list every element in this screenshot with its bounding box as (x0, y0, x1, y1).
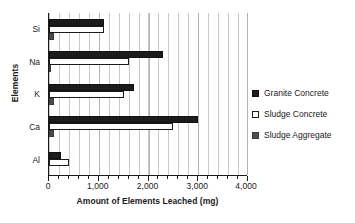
bar-group-k (49, 78, 247, 110)
bar-sludge-concrete (49, 58, 129, 65)
x-axis-title: Amount of Elements Leached (mg) (30, 196, 265, 206)
x-axis-tick-label: 1,000 (87, 181, 108, 191)
bar-granite-concrete (49, 51, 163, 58)
outlined-white-square-icon (252, 111, 259, 118)
gridline-major (247, 13, 248, 175)
plot-area (48, 13, 247, 176)
filled-gray-square-icon (252, 132, 259, 139)
y-axis-tick-label: Ca (18, 111, 44, 144)
bar-sludge-concrete (49, 91, 124, 98)
bar-groups (49, 13, 247, 175)
legend-label: Sludge Concrete (264, 109, 327, 119)
bar-sludge-concrete (49, 123, 173, 130)
x-axis-tick-minor (157, 176, 158, 179)
legend-label: Sludge Aggregate (264, 130, 332, 140)
legend-label: Granite Concrete (264, 88, 329, 98)
bar-group-ca (49, 110, 247, 142)
x-axis-tick-minor (237, 176, 238, 179)
bar-sludge-aggregate (49, 65, 51, 72)
x-axis-tick-label: 3,000 (187, 181, 208, 191)
bar-group-si (49, 13, 247, 45)
chart-legend: Granite Concrete Sludge Concrete Sludge … (252, 88, 332, 140)
x-axis-tick-minor (58, 176, 59, 179)
bar-chart: Elements Si Na K Ca Al (0, 0, 355, 223)
legend-item-sludge-aggregate: Sludge Aggregate (252, 130, 332, 140)
bar-group-na (49, 45, 247, 77)
y-axis-tick-label: Si (18, 13, 44, 46)
x-axis-tick-minor (207, 176, 208, 179)
bar-granite-concrete (49, 84, 134, 91)
x-axis-tick-labels: 0 1,000 2,000 3,000 4,000 (48, 181, 247, 195)
x-axis-tick-minor (217, 176, 218, 179)
y-axis-tick-label: K (18, 78, 44, 111)
x-axis-tick-minor (78, 176, 79, 179)
y-axis-tick-labels: Si Na K Ca Al (18, 13, 44, 176)
x-axis-tick-minor (138, 176, 139, 179)
bar-sludge-concrete (49, 159, 69, 166)
legend-item-granite-concrete: Granite Concrete (252, 88, 332, 98)
legend-item-sludge-concrete: Sludge Concrete (252, 109, 332, 119)
x-axis-tick-label: 4,000 (235, 181, 256, 191)
x-axis-tick-minor (68, 176, 69, 179)
filled-black-square-icon (252, 90, 259, 97)
x-axis-tick-minor (167, 176, 168, 179)
x-axis-tick-minor (187, 176, 188, 179)
x-axis-tick-minor (177, 176, 178, 179)
x-axis-tick-minor (88, 176, 89, 179)
x-axis-tick-label: 2,000 (137, 181, 158, 191)
x-axis-tick-minor (108, 176, 109, 179)
x-axis-tick-minor (227, 176, 228, 179)
y-axis-tick-label: Na (18, 46, 44, 79)
bar-granite-concrete (49, 19, 104, 26)
bar-sludge-aggregate (49, 33, 54, 40)
x-axis-tick-label: 0 (46, 181, 51, 191)
bar-sludge-aggregate (49, 130, 54, 137)
x-axis-tick-minor (118, 176, 119, 179)
x-axis-tick-minor (128, 176, 129, 179)
bar-granite-concrete (49, 116, 198, 123)
bar-sludge-concrete (49, 26, 104, 33)
bar-sludge-aggregate (49, 98, 54, 105)
y-axis-tick-label: Al (18, 143, 44, 176)
bar-group-al (49, 143, 247, 175)
bar-granite-concrete (49, 152, 61, 159)
